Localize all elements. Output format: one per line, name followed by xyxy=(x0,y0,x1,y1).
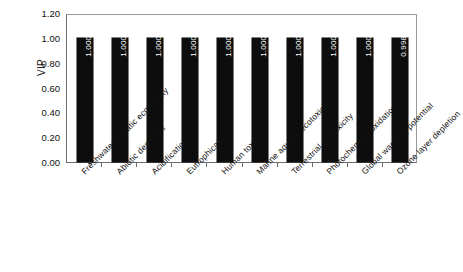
x-axis-tick-mark xyxy=(101,163,102,167)
x-axis-tick-mark xyxy=(347,163,348,167)
x-axis-tick-label: Ozone layer depletion xyxy=(395,109,462,176)
x-axis-tick-mark xyxy=(312,163,313,167)
x-axis-tick-mark xyxy=(136,163,137,167)
x-axis-tick-label: Terrestrial ecotoxicity xyxy=(290,111,355,176)
x-axis-tick-mark xyxy=(171,163,172,167)
x-axis-tick-mark xyxy=(277,163,278,167)
x-axis-tick-mark xyxy=(382,163,383,167)
x-axis-tick-mark xyxy=(206,163,207,167)
x-axis-tick-label: Acidification xyxy=(150,137,190,177)
x-axis-tick-mark xyxy=(242,163,243,167)
